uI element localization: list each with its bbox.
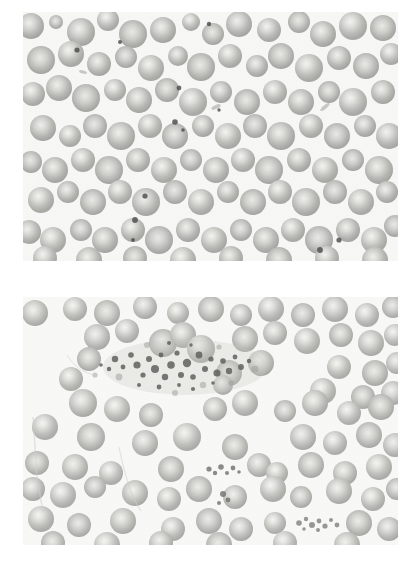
panel-bottom-film-grain (23, 297, 398, 545)
panel-top-canvas (23, 12, 398, 261)
micrograph-panel-bottom (23, 297, 398, 545)
panel-bottom-canvas (23, 297, 398, 545)
panel-top-film-grain (23, 12, 398, 261)
figure-root: Peripheral blood smear light micrographs (0, 0, 419, 565)
micrograph-panel-top (23, 12, 398, 261)
